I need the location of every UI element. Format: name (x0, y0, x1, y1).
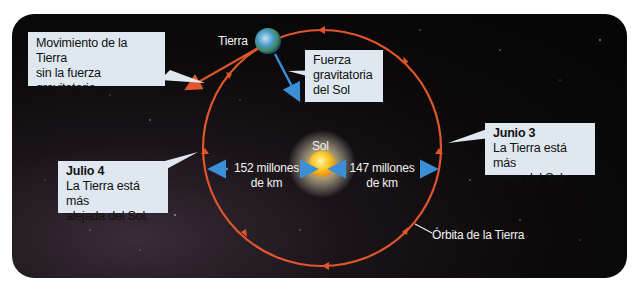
sun (309, 151, 335, 177)
aphelion-distance: 152 millones de km (229, 161, 304, 191)
orbit-label: Órbita de la Tierra (432, 228, 524, 243)
callout-pointer-motion (160, 70, 205, 83)
gravity-arrow (275, 54, 298, 98)
sun-label: Sol (312, 139, 329, 154)
orbit-label-leader (415, 224, 432, 233)
earth-label: Tierra (218, 34, 248, 49)
callout-gravity-force: Fuerza gravitatoria del Sol (305, 50, 383, 102)
callout-pointer-june (448, 128, 490, 143)
perihelion-distance: 147 millones de km (343, 161, 421, 191)
callout-july: Julio 4 La Tierra está más alejada del S… (58, 161, 168, 213)
earth (255, 28, 281, 54)
callout-motion-without-gravity: Movimiento de la Tierra sin la fuerza gr… (28, 32, 165, 86)
callout-june: Junio 3 La Tierra está más cerca del Sol… (485, 123, 595, 175)
